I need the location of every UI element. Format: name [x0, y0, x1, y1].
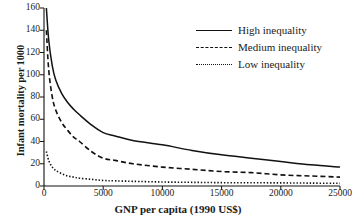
chart-legend: High inequality Medium inequality Low in…: [196, 22, 346, 73]
legend-key-dashed-line-icon: [196, 42, 232, 52]
x-tick-label: 5000: [73, 189, 133, 199]
chart-figure: Infant mortality per 1000 02040608010012…: [0, 0, 356, 223]
x-tick-label: 0: [14, 189, 74, 199]
x-tick-label: 25000: [310, 189, 356, 199]
legend-label: High inequality: [232, 24, 307, 36]
x-axis-title: GNP per capita (1990 US$): [0, 203, 356, 215]
legend-label: Low inequality: [232, 58, 305, 70]
x-tick-label: 20000: [251, 189, 311, 199]
x-tick-label: 10000: [132, 189, 192, 199]
series-line-low-inequality: [46, 152, 340, 184]
legend-key-dotted-line-icon: [196, 59, 232, 69]
legend-item-high-inequality: High inequality: [196, 22, 346, 37]
legend-label: Medium inequality: [232, 41, 322, 53]
legend-item-low-inequality: Low inequality: [196, 56, 346, 71]
x-tick-label: 15000: [192, 189, 252, 199]
legend-key-solid-line-icon: [196, 25, 232, 35]
legend-item-medium-inequality: Medium inequality: [196, 39, 346, 54]
